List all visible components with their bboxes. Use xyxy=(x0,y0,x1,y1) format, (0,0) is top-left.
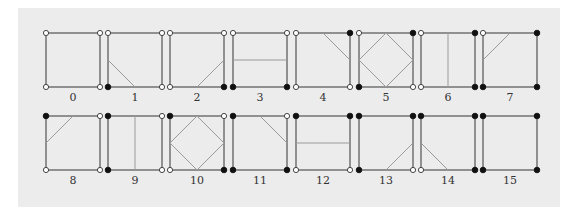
contour-line xyxy=(170,143,197,170)
contour-line xyxy=(108,60,135,87)
vertex-empty-icon xyxy=(167,30,172,35)
contour-line xyxy=(421,143,448,170)
vertex-empty-icon xyxy=(167,167,172,172)
cell-square xyxy=(296,33,350,87)
vertex-filled-icon xyxy=(230,113,236,119)
cell-square xyxy=(359,33,413,87)
vertex-empty-icon xyxy=(347,167,352,172)
vertex-filled-icon xyxy=(284,167,290,173)
contour-line xyxy=(260,116,287,143)
case-label: 10 xyxy=(170,174,224,187)
vertex-empty-icon xyxy=(43,167,48,172)
contour-line xyxy=(197,116,224,143)
vertex-filled-icon xyxy=(480,167,486,173)
case-2 xyxy=(167,30,226,89)
vertex-empty-icon xyxy=(410,167,415,172)
vertex-empty-icon xyxy=(97,167,102,172)
case-13 xyxy=(356,113,416,173)
contour-line xyxy=(359,60,386,87)
vertex-filled-icon xyxy=(472,113,478,119)
vertex-empty-icon xyxy=(230,30,235,35)
case-label: 8 xyxy=(46,174,100,187)
cell-square xyxy=(170,116,224,170)
cell-square xyxy=(483,116,537,170)
contour-line xyxy=(386,33,413,60)
vertex-empty-icon xyxy=(159,84,164,89)
case-label: 15 xyxy=(483,174,537,187)
vertex-filled-icon xyxy=(105,113,111,119)
vertex-filled-icon xyxy=(230,84,236,90)
case-label: 14 xyxy=(421,174,475,187)
contour-line xyxy=(386,60,413,87)
vertex-empty-icon xyxy=(347,84,352,89)
cell-square xyxy=(46,116,100,170)
vertex-filled-icon xyxy=(347,113,353,119)
vertex-filled-icon xyxy=(105,167,111,173)
contour-line xyxy=(323,33,350,60)
vertex-filled-icon xyxy=(167,113,173,119)
vertex-filled-icon xyxy=(221,167,227,173)
case-label: 4 xyxy=(296,91,350,104)
vertex-empty-icon xyxy=(159,167,164,172)
vertex-empty-icon xyxy=(480,30,485,35)
vertex-empty-icon xyxy=(284,30,289,35)
vertex-empty-icon xyxy=(221,113,226,118)
vertex-filled-icon xyxy=(356,113,362,119)
case-0 xyxy=(43,30,102,89)
cell-square xyxy=(483,33,537,87)
case-label: 1 xyxy=(108,91,162,104)
case-12 xyxy=(293,113,353,172)
case-3 xyxy=(230,30,290,89)
vertex-empty-icon xyxy=(167,84,172,89)
case-7 xyxy=(480,30,540,90)
vertex-filled-icon xyxy=(480,113,486,119)
vertex-filled-icon xyxy=(418,113,424,119)
vertex-empty-icon xyxy=(97,113,102,118)
contour-line xyxy=(170,116,197,143)
vertex-filled-icon xyxy=(347,30,353,36)
vertex-filled-icon xyxy=(472,84,478,90)
vertex-filled-icon xyxy=(221,84,227,90)
vertex-empty-icon xyxy=(418,30,423,35)
vertex-filled-icon xyxy=(534,113,540,119)
case-10 xyxy=(167,113,227,173)
case-6 xyxy=(418,30,477,90)
case-label: 12 xyxy=(296,174,350,187)
vertex-empty-icon xyxy=(284,113,289,118)
vertex-empty-icon xyxy=(418,167,423,172)
cell-square xyxy=(233,116,287,170)
contour-line xyxy=(359,33,386,60)
case-15 xyxy=(480,113,540,173)
cell-square xyxy=(359,116,413,170)
vertex-filled-icon xyxy=(410,30,416,36)
vertex-filled-icon xyxy=(284,84,290,90)
vertex-empty-icon xyxy=(356,30,361,35)
case-label: 7 xyxy=(483,91,537,104)
vertex-filled-icon xyxy=(293,113,299,119)
vertex-empty-icon xyxy=(221,30,226,35)
vertex-filled-icon xyxy=(105,84,111,90)
contour-line xyxy=(46,116,73,143)
vertex-empty-icon xyxy=(293,167,298,172)
case-label: 3 xyxy=(233,91,287,104)
contour-line xyxy=(197,60,224,87)
vertex-empty-icon xyxy=(43,84,48,89)
vertex-filled-icon xyxy=(230,167,236,173)
cell-square xyxy=(170,33,224,87)
vertex-filled-icon xyxy=(410,113,416,119)
vertex-filled-icon xyxy=(534,84,540,90)
case-8 xyxy=(43,113,102,172)
vertex-filled-icon xyxy=(534,30,540,36)
vertex-empty-icon xyxy=(410,84,415,89)
vertex-empty-icon xyxy=(105,30,110,35)
case-label: 9 xyxy=(108,174,162,187)
cell-square xyxy=(46,33,100,87)
case-14 xyxy=(418,113,478,173)
vertex-empty-icon xyxy=(293,84,298,89)
case-label: 6 xyxy=(421,91,475,104)
vertex-filled-icon xyxy=(472,167,478,173)
vertex-empty-icon xyxy=(293,30,298,35)
case-label: 2 xyxy=(170,91,224,104)
case-1 xyxy=(105,30,164,89)
case-label: 13 xyxy=(359,174,413,187)
